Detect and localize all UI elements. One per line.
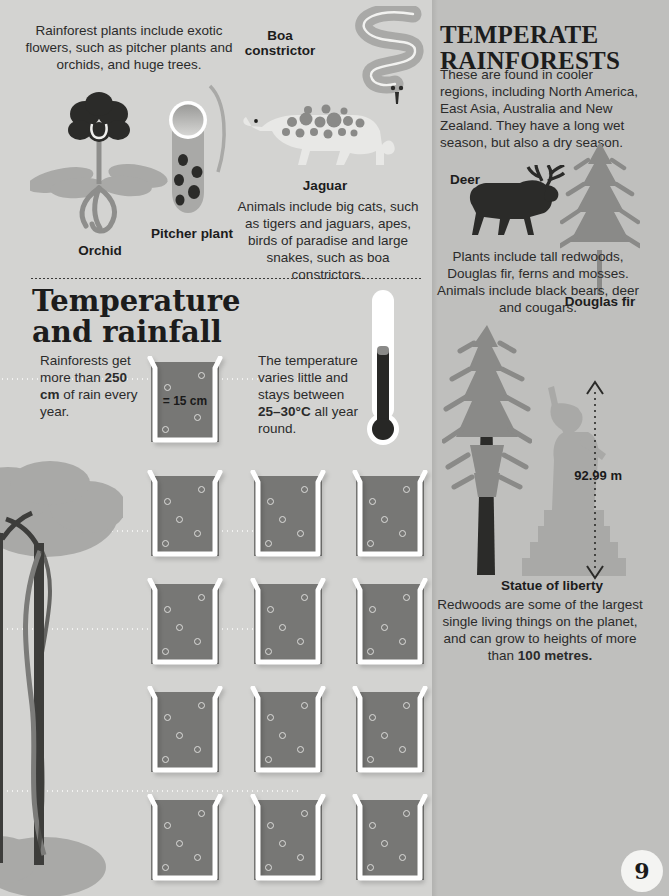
rain-bucket xyxy=(249,470,327,560)
temperature-rainfall-title: Temperature and rainfall xyxy=(32,286,292,348)
tropical-intro-text: Rainforest plants include exotic flowers… xyxy=(24,22,234,73)
orchid-label: Orchid xyxy=(30,243,170,258)
rain-bucket xyxy=(249,578,327,668)
section-divider xyxy=(30,277,422,280)
thermometer-icon xyxy=(366,288,400,448)
statue-of-liberty-label: Statue of liberty xyxy=(452,578,652,593)
title-line-1: Temperature xyxy=(32,286,292,317)
tropical-animals-text: Animals include big cats, such as tigers… xyxy=(232,198,424,283)
rain-bucket xyxy=(146,578,224,668)
temperate-rainforest-panel: TEMPERATE RAINFORESTS These are found in… xyxy=(432,0,669,896)
rain-bucket xyxy=(249,686,327,776)
rain-bucket xyxy=(351,470,429,560)
rainforest-tree-silhouette xyxy=(0,455,123,896)
panel-edge-shadow xyxy=(432,0,438,896)
page-number: 9 xyxy=(621,850,663,892)
temperate-plants-text: Plants include tall redwoods, Douglas fi… xyxy=(434,248,642,316)
rain-bucket xyxy=(146,794,224,884)
statue-height-label: 92.99 m xyxy=(552,468,622,483)
orchid-illustration xyxy=(30,88,170,238)
jaguar-illustration xyxy=(240,95,405,175)
pitcher-plant-label: Pitcher plant xyxy=(150,226,234,241)
temperature-description: The temperature varies little and stays … xyxy=(258,352,368,437)
temperature-text-pre: The temperature varies little and stays … xyxy=(258,353,358,402)
pitcher-plant-illustration xyxy=(152,80,232,245)
rain-bucket xyxy=(351,686,429,776)
rain-bucket-legend-label: = 15 cm xyxy=(150,394,220,408)
boa-constrictor-label: Boa constrictor xyxy=(238,28,322,58)
redwood-description: Redwoods are some of the largest single … xyxy=(434,596,646,664)
rain-bucket xyxy=(351,578,429,668)
rain-bucket xyxy=(146,470,224,560)
rainfall-description: Rainforests get more than 250 cm of rain… xyxy=(40,352,148,420)
rain-bucket xyxy=(351,794,429,884)
redwood-height: 100 metres. xyxy=(518,648,592,663)
rain-bucket xyxy=(249,794,327,884)
temperate-intro-text: These are found in cooler regions, inclu… xyxy=(440,66,640,151)
deer-label: Deer xyxy=(450,172,506,187)
jaguar-label: Jaguar xyxy=(250,178,400,193)
temperate-title-line-1: TEMPERATE xyxy=(440,22,620,48)
title-line-2: and rainfall xyxy=(32,317,292,348)
rain-bucket xyxy=(146,686,224,776)
temperature-range: 25–30°C xyxy=(258,404,311,419)
